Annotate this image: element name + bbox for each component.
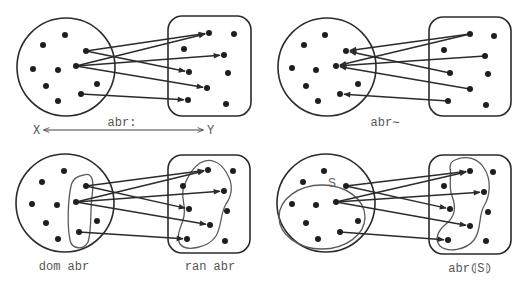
panel-relation <box>17 16 251 116</box>
target-element-dot <box>482 53 488 59</box>
source-element-dot <box>43 220 49 226</box>
source-element-dot <box>355 218 361 224</box>
target-element-dot <box>445 98 451 104</box>
source-element-dot <box>343 183 349 189</box>
diagram-canvas: X Y abr: abr∼ dom abr ran abr S abr⦇S⦈ <box>0 0 526 284</box>
source-element-dot <box>62 32 68 38</box>
target-element-dot <box>207 222 213 228</box>
panel-relational-image <box>277 154 511 254</box>
source-element-dot <box>55 236 61 242</box>
source-element-dot <box>303 220 309 226</box>
source-element-dot <box>289 201 295 207</box>
source-element-dot <box>337 91 343 97</box>
mapping-arrow <box>346 171 466 186</box>
source-element-dot <box>54 202 60 208</box>
target-element-dot <box>481 189 487 195</box>
target-element-dot <box>221 52 227 58</box>
target-element-dot <box>231 31 237 37</box>
source-element-dot <box>289 65 295 71</box>
panel-inverse <box>278 17 511 116</box>
relation-diagrams: X Y abr: abr∼ dom abr ran abr S abr⦇S⦈ <box>0 0 526 284</box>
label-abr-image: abr⦇S⦈ <box>448 262 491 276</box>
source-element-dot <box>321 168 327 174</box>
target-element-dot <box>185 97 191 103</box>
target-element-dot <box>467 31 473 37</box>
target-element-dot <box>186 206 192 212</box>
source-element-dot <box>315 236 321 242</box>
target-element-dot <box>205 167 211 173</box>
target-element-dot <box>223 101 229 107</box>
source-element-dot <box>55 98 61 104</box>
source-element-dot <box>43 83 49 89</box>
source-element-dot <box>83 48 89 54</box>
source-element-dot <box>55 67 61 73</box>
label-subset-s: S <box>328 176 336 190</box>
target-element-dot <box>485 209 491 215</box>
target-element-dot <box>467 223 473 229</box>
source-element-dot <box>355 81 361 87</box>
source-element-dot <box>39 179 45 185</box>
label-abr-inverse: abr∼ <box>371 116 400 130</box>
target-element-dot <box>483 102 489 108</box>
target-element-dot <box>224 208 230 214</box>
target-element-dot <box>467 168 473 174</box>
target-element-dot <box>180 183 186 189</box>
source-element-dot <box>40 42 46 48</box>
label-x: X <box>33 124 40 138</box>
label-ran-abr: ran abr <box>185 260 235 274</box>
source-element-dot <box>313 202 319 208</box>
source-element-dot <box>78 91 84 97</box>
source-element-dot <box>61 168 67 174</box>
target-element-dot <box>441 183 447 189</box>
source-element-dot <box>313 67 319 73</box>
target-element-dot <box>184 236 190 242</box>
source-element-dot <box>300 179 306 185</box>
target-element-dot <box>491 33 497 39</box>
target-element-dot <box>230 168 236 174</box>
target-element-dot <box>225 70 231 76</box>
source-element-dot <box>322 32 328 38</box>
target-element-dot <box>445 237 451 243</box>
target-element-dot <box>181 46 187 52</box>
source-element-dot <box>94 218 100 224</box>
source-element-dot <box>73 199 79 205</box>
mapping-arrow <box>344 94 448 101</box>
source-element-dot <box>73 63 79 69</box>
source-element-dot <box>315 98 321 104</box>
target-element-dot <box>447 70 453 76</box>
label-y: Y <box>207 124 214 138</box>
label-dom-abr: dom abr <box>39 260 89 274</box>
source-element-dot <box>343 48 349 54</box>
target-element-dot <box>206 30 212 36</box>
source-element-dot <box>30 66 36 72</box>
source-element-dot <box>333 199 339 205</box>
target-element-dot <box>483 238 489 244</box>
target-element-dot <box>490 169 496 175</box>
source-element-dot <box>29 201 35 207</box>
target-element-dot <box>222 238 228 244</box>
source-element-dot <box>337 229 343 235</box>
target-element-dot <box>186 69 192 75</box>
source-element-dot <box>94 81 100 87</box>
target-element-dot <box>447 206 453 212</box>
target-element-dot <box>221 188 227 194</box>
label-abr-relation: abr: <box>108 116 137 130</box>
target-element-dot <box>204 85 210 91</box>
subset-s-outline <box>279 185 365 249</box>
source-element-dot <box>303 83 309 89</box>
target-element-dot <box>441 47 447 53</box>
source-element-dot <box>76 229 82 235</box>
source-element-dot <box>301 42 307 48</box>
source-element-dot <box>83 183 89 189</box>
source-element-dot <box>333 63 339 69</box>
panel-domain-range <box>16 154 250 253</box>
mapping-arrow <box>340 56 485 66</box>
target-element-dot <box>467 86 473 92</box>
mapping-arrow <box>346 186 446 208</box>
target-element-dot <box>485 71 491 77</box>
